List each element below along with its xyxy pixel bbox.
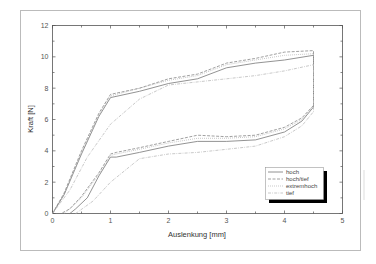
x-tick-label: 4 bbox=[283, 217, 287, 224]
y-tick-label: 0 bbox=[45, 210, 49, 217]
x-tick-label: 5 bbox=[341, 217, 345, 224]
x-tick-label: 0 bbox=[51, 217, 55, 224]
y-tick-label: 4 bbox=[45, 147, 49, 154]
legend: hochhoch/tiefextremhochtief bbox=[266, 168, 328, 204]
legend-label: tief bbox=[286, 190, 294, 196]
y-tick-label: 10 bbox=[41, 53, 49, 60]
legend-label: hoch bbox=[286, 169, 299, 175]
legend-label: extremhoch bbox=[286, 183, 317, 189]
y-axis-title: Kraft [N] bbox=[26, 105, 35, 133]
y-tick-label: 6 bbox=[45, 116, 49, 123]
legend-label: hoch/tief bbox=[286, 176, 309, 182]
y-tick-label: 8 bbox=[45, 85, 49, 92]
chart-figure: 012345024681012 Auslenkung [mm] Kraft [N… bbox=[0, 0, 376, 264]
y-tick-label: 2 bbox=[45, 179, 49, 186]
y-tick-label: 12 bbox=[41, 22, 49, 29]
x-tick-label: 3 bbox=[225, 217, 229, 224]
x-tick-label: 1 bbox=[109, 217, 113, 224]
x-tick-label: 2 bbox=[167, 217, 171, 224]
x-axis-title: Auslenkung [mm] bbox=[168, 230, 226, 239]
